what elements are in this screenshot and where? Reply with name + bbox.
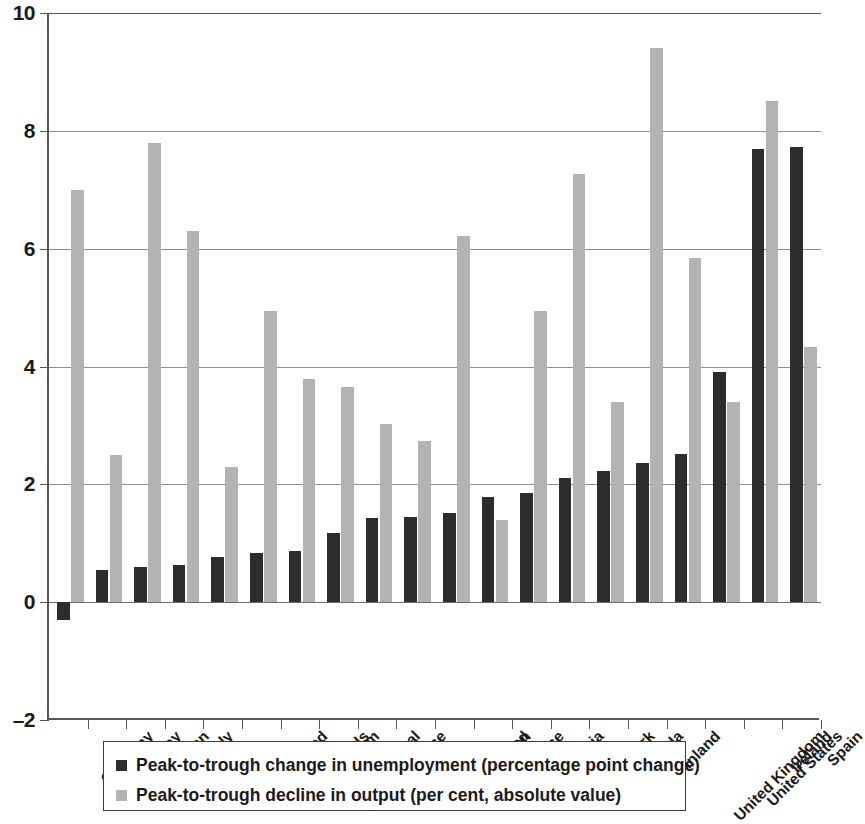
bar-spain-series-1 [790,147,803,602]
bar-netherlands-series-1 [250,553,263,602]
x-tick-mark [319,720,320,729]
legend-item-output: Peak-to-trough decline in output (per ce… [116,780,685,810]
bar-portugal-series-1 [327,533,340,602]
x-tick-mark [396,720,397,729]
x-tick-mark [358,720,359,729]
bar-france-series-2 [380,424,393,602]
x-tick-mark [281,720,282,729]
y-tick-mark [40,249,49,250]
x-tick-mark [512,720,513,729]
bar-france-series-1 [366,518,379,602]
y-tick-mark [40,131,49,132]
x-tick-mark [782,720,783,729]
x-tick-mark [126,720,127,729]
light-square-marker-icon [116,790,127,801]
bar-united-states-series-2 [727,402,740,602]
bar-united-kingdom-series-1 [675,454,688,602]
bar-new-zealand-series-2 [418,441,431,602]
bar-ireland-series-2 [766,101,779,602]
bar-canada-series-1 [597,471,610,602]
bar-canada-series-2 [611,402,624,602]
bar-belgium-series-2 [303,379,316,602]
y-tick-label: 4 [0,356,35,377]
x-label-united-kingdom: United Kingdom [731,728,827,824]
bar-united-kingdom-series-2 [689,258,702,603]
bar-new-zealand-series-1 [404,517,417,602]
y-tick-label: 6 [0,238,35,259]
y-tick-mark [40,602,49,603]
bar-spain-series-2 [804,347,817,602]
y-tick-label: 0 [0,591,35,612]
x-tick-mark [667,720,668,729]
y-tick-mark [40,720,49,721]
bar-united-states-series-1 [713,372,726,602]
bar-finland-series-2 [650,48,663,602]
x-tick-mark [744,720,745,729]
x-tick-mark [705,720,706,729]
chart-legend: Peak-to-trough change in unemployment (p… [103,741,686,811]
x-tick-mark [628,720,629,729]
x-label-ireland: Ireland [788,728,835,775]
bar-sweden-series-2 [457,236,470,602]
bar-series-layer [49,13,819,720]
y-tick-label: –2 [0,709,35,730]
bar-denmark-series-1 [559,478,572,602]
y-tick-label: 8 [0,120,35,141]
x-tick-mark [474,720,475,729]
bar-japan-series-1 [134,567,147,602]
dark-square-marker-icon [116,760,127,771]
x-tick-mark [88,720,89,729]
bar-italy-series-1 [173,565,186,602]
legend-item-unemployment: Peak-to-trough change in unemployment (p… [116,750,685,780]
bar-denmark-series-2 [573,174,586,602]
x-tick-mark [821,720,822,729]
y-tick-label: 10 [0,2,35,23]
y-tick-mark [40,367,49,368]
bar-finland-series-1 [636,463,649,603]
bar-greece-series-2 [496,520,509,602]
bar-belgium-series-1 [289,551,302,602]
bar-austria-series-2 [534,311,547,603]
bar-japan-series-2 [148,143,161,603]
legend-label-output: Peak-to-trough decline in output (per ce… [136,785,621,806]
y-tick-mark [40,484,49,485]
bar-austria-series-1 [520,493,533,603]
x-tick-mark [165,720,166,729]
x-tick-mark [435,720,436,729]
bar-norway-series-2 [110,455,123,602]
x-label-united-states: United States [764,728,845,809]
bar-switzerland-series-2 [225,467,238,603]
x-label-spain: Spain [824,728,865,769]
x-tick-mark [551,720,552,729]
bar-greece-series-1 [482,497,495,602]
y-tick-mark [40,13,49,14]
bar-norway-series-1 [96,570,109,602]
bar-ireland-series-1 [752,149,765,603]
bar-germany-series-2 [71,190,84,602]
bar-sweden-series-1 [443,513,456,603]
bar-portugal-series-2 [341,387,354,603]
x-tick-mark [203,720,204,729]
bar-italy-series-2 [187,231,200,602]
legend-label-unemployment: Peak-to-trough change in unemployment (p… [136,755,700,776]
x-tick-mark [242,720,243,729]
bar-netherlands-series-2 [264,311,277,603]
y-tick-label: 2 [0,473,35,494]
bar-germany-series-1 [57,602,70,620]
bar-switzerland-series-1 [211,557,224,602]
x-tick-mark [589,720,590,729]
